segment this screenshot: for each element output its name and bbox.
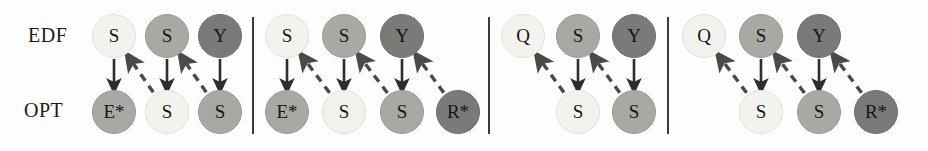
node-label: S (339, 102, 350, 121)
node-label: Y (213, 26, 227, 45)
panel-2-edf-node-2: S (322, 14, 366, 58)
panel-4-edf-node-3: Y (797, 14, 841, 58)
node-label: S (162, 102, 173, 121)
panel-3-edf-node-2: S (556, 14, 600, 58)
node-label: S (573, 102, 584, 121)
panel-1-edf-node-2: S (145, 14, 189, 58)
panel-4-opt-node-2: S (797, 90, 841, 134)
node-label: Q (697, 26, 711, 45)
row-label-edf: EDF (28, 24, 67, 47)
node-label: S (756, 26, 767, 45)
node-label: S (215, 102, 226, 121)
panel-1-opt-node-1: E* (92, 90, 136, 134)
panel-2-edf-node-1: S (265, 14, 309, 58)
panel-1-opt-node-3: S (198, 90, 242, 134)
panel-3-edf-node-1: Q (501, 14, 545, 58)
panel-4-opt-node-1: S (739, 90, 783, 134)
node-label: E* (103, 102, 124, 121)
panel-1-dashed-arrow-2 (181, 57, 206, 93)
panel-1-edf-node-3: Y (198, 14, 242, 58)
panel-4-dashed-arrow-2 (776, 56, 804, 93)
node-label: S (629, 102, 640, 121)
panel-2-dashed-arrow-1 (302, 56, 330, 93)
node-label: E* (276, 102, 297, 121)
panel-2-opt-node-3: S (380, 90, 424, 134)
schedule-comparison-figure: EDFOPT SSYE*SSSSYE*SSR*QSYSSQSYSSR* (0, 0, 928, 151)
panel-1-dashed-arrow-1 (128, 57, 153, 93)
node-label: Y (395, 26, 409, 45)
panel-3-opt-node-2: S (612, 90, 656, 134)
node-label: S (756, 102, 767, 121)
panel-3-dashed-arrow-2 (593, 56, 620, 93)
panel-2-opt-node-1: E* (265, 90, 309, 134)
node-label: Y (812, 26, 826, 45)
node-label: S (397, 102, 408, 121)
row-label-opt: OPT (24, 99, 63, 122)
panel-1-edf-node-1: S (92, 14, 136, 58)
panel-4-edf-node-1: Q (682, 14, 726, 58)
panel-4-edf-node-2: S (739, 14, 783, 58)
node-label: S (573, 26, 584, 45)
node-label: Q (516, 26, 530, 45)
transition-arrows (114, 56, 862, 93)
node-label: S (814, 102, 825, 121)
node-label: Y (627, 26, 641, 45)
node-label: S (109, 26, 120, 45)
panel-2-dashed-arrow-3 (417, 56, 444, 93)
node-label: R* (865, 102, 887, 121)
panel-2-edf-node-3: Y (380, 14, 424, 58)
node-label: S (162, 26, 173, 45)
panel-2-opt-node-2: S (322, 90, 366, 134)
node-label: S (282, 26, 293, 45)
node-label: R* (447, 102, 469, 121)
node-label: S (339, 26, 350, 45)
panel-3-opt-node-1: S (556, 90, 600, 134)
panel-3-edf-node-3: Y (612, 14, 656, 58)
panel-2-dashed-arrow-2 (359, 56, 387, 93)
panel-4-dashed-arrow-3 (834, 56, 862, 93)
panel-4-opt-node-3: R* (854, 90, 898, 134)
panel-1-opt-node-2: S (145, 90, 189, 134)
panel-3-dashed-arrow-1 (538, 56, 564, 92)
panel-2-opt-node-4: R* (436, 90, 480, 134)
panel-4-dashed-arrow-1 (719, 56, 747, 93)
